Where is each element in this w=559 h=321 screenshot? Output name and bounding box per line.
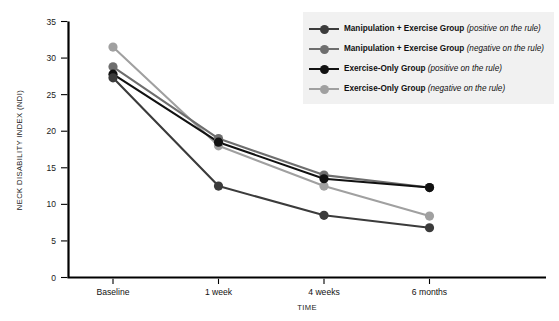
legend-dot	[320, 85, 329, 94]
legend-group-name: Exercise-Only Group	[344, 64, 425, 73]
x-axis-ticks	[113, 279, 430, 284]
data-point-marker	[319, 174, 328, 183]
legend-label: Exercise-Only Group (negative on the rul…	[344, 85, 505, 93]
x-category-label: 1 week	[205, 287, 233, 297]
data-point-marker	[425, 211, 434, 220]
y-axis-tick-labels: 05101520253035	[47, 17, 57, 283]
y-tick-label: 5	[51, 236, 56, 246]
y-tick-label: 30	[47, 53, 57, 63]
legend-dot	[320, 25, 329, 34]
data-point-marker	[214, 138, 223, 147]
data-point-marker	[425, 183, 434, 192]
line-chart: 05101520253035 Baseline1 week4 weeks6 mo…	[0, 0, 559, 321]
legend-group-name: Exercise-Only Group	[344, 84, 425, 93]
chart-legend: Manipulation + Exercise Group (positive …	[303, 12, 554, 104]
x-axis-title: TIME	[297, 303, 317, 312]
legend-label: Manipulation + Exercise Group (negative …	[344, 45, 544, 53]
y-tick-label: 20	[47, 126, 57, 136]
legend-item: Manipulation + Exercise Group (positive …	[309, 19, 548, 39]
circle-marker	[309, 43, 339, 55]
y-tick-label: 35	[47, 17, 57, 27]
legend-qualifier: (positive on the rule)	[428, 64, 502, 73]
legend-qualifier: (positive on the rule)	[467, 24, 541, 33]
legend-dot	[320, 65, 329, 74]
y-axis-ticks	[61, 22, 67, 278]
legend-item: Exercise-Only Group (negative on the rul…	[309, 79, 548, 99]
legend-dot	[320, 45, 329, 54]
legend-qualifier: (negative on the rule)	[428, 84, 505, 93]
circle-marker	[309, 83, 339, 95]
data-point-marker	[108, 73, 117, 82]
circle-marker	[309, 23, 339, 35]
y-tick-label: 0	[51, 273, 56, 283]
legend-qualifier: (negative on the rule)	[467, 44, 544, 53]
legend-item: Exercise-Only Group (positive on the rul…	[309, 59, 548, 79]
legend-label: Manipulation + Exercise Group (positive …	[344, 25, 541, 33]
legend-group-name: Manipulation + Exercise Group	[344, 44, 464, 53]
legend-item: Manipulation + Exercise Group (negative …	[309, 39, 548, 59]
y-tick-label: 15	[47, 163, 57, 173]
y-tick-label: 25	[47, 90, 57, 100]
x-category-label: 6 months	[412, 287, 447, 297]
y-axis-title: NECK DISABILITY INDEX (NDI)	[15, 90, 24, 210]
data-point-marker	[425, 223, 434, 232]
data-point-marker	[319, 211, 328, 220]
x-category-label: Baseline	[97, 287, 130, 297]
legend-label: Exercise-Only Group (positive on the rul…	[344, 65, 502, 73]
y-tick-label: 10	[47, 199, 57, 209]
data-point-marker	[214, 181, 223, 190]
x-axis-category-labels: Baseline1 week4 weeks6 months	[97, 287, 448, 297]
legend-group-name: Manipulation + Exercise Group	[344, 24, 464, 33]
data-point-marker	[108, 43, 117, 52]
x-category-label: 4 weeks	[308, 287, 340, 297]
circle-marker	[309, 63, 339, 75]
